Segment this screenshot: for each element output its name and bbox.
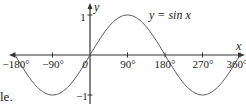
x-tick-label: 180°: [155, 58, 176, 70]
y-axis-label: y: [93, 0, 100, 14]
x-tick-label: 90°: [120, 58, 135, 70]
x-tick-label: 270°: [193, 58, 214, 70]
x-tick-label: 0: [82, 58, 88, 70]
curve-label: y = sin x: [148, 8, 191, 22]
y-tick-label-1: 1: [80, 11, 86, 23]
x-tick-label: −90°: [42, 58, 64, 70]
y-axis-arrow-icon: [88, 3, 93, 9]
y-tick-label-neg1: −1: [76, 90, 88, 102]
x-axis-left-arrow-icon: [9, 53, 15, 58]
x-tick-label: 360°: [227, 58, 246, 70]
x-tick-label: −180°: [2, 58, 29, 70]
sine-graph: y x y = sin x 1 −1 −180° −90° 0 90° 180°…: [0, 0, 246, 107]
x-axis-label: x: [235, 39, 242, 53]
cropped-text-fragment: le.: [0, 89, 13, 105]
